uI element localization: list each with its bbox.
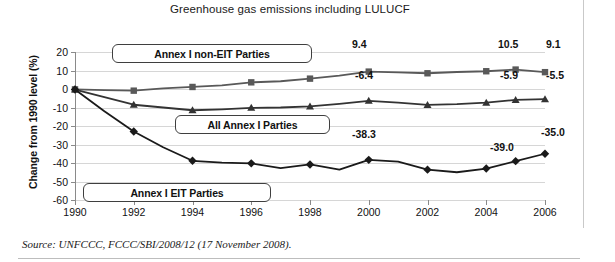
figure-right-border	[583, 0, 584, 228]
data-point-marker	[423, 165, 431, 173]
x-tick-label: 2004	[456, 206, 516, 218]
figure-bottom-border	[18, 258, 580, 259]
y-tick-label: -30	[28, 139, 68, 151]
series-square	[72, 66, 548, 93]
x-tick-mark	[545, 200, 546, 205]
y-tick-label: 20	[28, 46, 68, 58]
x-tick-label: 1992	[104, 206, 164, 218]
chart-figure: Greenhouse gas emissions including LULUC…	[0, 0, 615, 262]
x-tick-label: 2000	[339, 206, 399, 218]
x-tick-label: 1998	[280, 206, 340, 218]
data-point-marker	[307, 75, 313, 81]
legend-annex-i-eit[interactable]: Annex I EIT Parties	[83, 183, 271, 202]
x-tick-mark	[428, 200, 429, 205]
x-tick-mark	[369, 200, 370, 205]
y-tick-label: -20	[28, 120, 68, 132]
data-label-eit-2006: -35.0	[541, 126, 565, 138]
data-point-marker	[424, 70, 430, 76]
data-point-marker	[247, 159, 255, 167]
data-point-marker	[482, 164, 490, 172]
x-tick-label: 1994	[163, 206, 223, 218]
y-tick-label: -60	[28, 194, 68, 206]
data-label-eit-2000: -38.3	[352, 128, 376, 140]
data-point-marker	[189, 84, 195, 90]
data-label-noneit-2000: 9.4	[352, 38, 367, 50]
y-tick-label: -10	[28, 102, 68, 114]
data-label-all-2006: -5.5	[546, 69, 564, 81]
source-note: Source: UNFCCC, FCCC/SBI/2008/12 (17 Nov…	[22, 238, 291, 250]
data-label-eit-2005: -39.0	[490, 141, 514, 153]
data-point-marker	[248, 79, 254, 85]
x-tick-label: 1996	[221, 206, 281, 218]
data-point-marker	[131, 87, 137, 93]
x-tick-label: 1990	[45, 206, 105, 218]
data-point-marker	[365, 156, 373, 164]
chart-title: Greenhouse gas emissions including LULUC…	[0, 3, 580, 15]
data-label-all-2005: -5.9	[500, 69, 518, 81]
x-tick-mark	[310, 200, 311, 205]
y-tick-label: 10	[28, 65, 68, 77]
x-tick-mark	[75, 200, 76, 205]
data-label-noneit-2006: 9.1	[546, 38, 561, 50]
legend-annex-i-non-eit[interactable]: Annex I non-EIT Parties	[112, 44, 312, 63]
x-tick-label: 2002	[398, 206, 458, 218]
data-point-marker	[306, 160, 314, 168]
data-point-marker	[511, 157, 519, 165]
y-tick-label: 0	[28, 83, 68, 95]
x-tick-mark	[486, 200, 487, 205]
y-tick-label: -40	[28, 157, 68, 169]
data-point-marker	[541, 150, 549, 158]
data-point-marker	[483, 68, 489, 74]
x-tick-label: 2006	[515, 206, 575, 218]
y-tick-label: -50	[28, 176, 68, 188]
data-point-marker	[188, 157, 196, 165]
data-label-all-2000: -6.4	[355, 69, 373, 81]
legend-all-annex-i[interactable]: All Annex I Parties	[175, 115, 330, 134]
data-label-noneit-2005: 10.5	[498, 38, 518, 50]
